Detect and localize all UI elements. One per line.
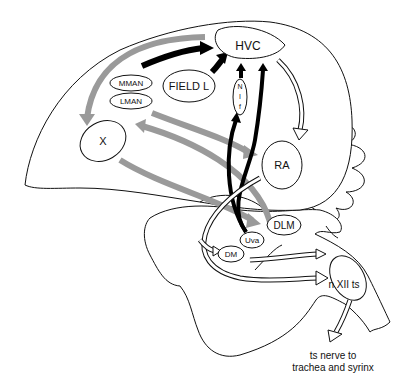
field-l-label: FIELD L [169, 80, 209, 92]
hollow-pathway-ts-nerve [328, 300, 350, 342]
x-label: X [99, 135, 107, 147]
ra-label: RA [274, 159, 290, 171]
hvc-label: HVC [235, 39, 261, 53]
nucleus-lman: LMAN [110, 93, 152, 109]
nif-label-n: N [237, 83, 242, 90]
annotation-trachea-syrinx: trachea and syrinx [292, 362, 374, 373]
nucleus-nif: N I f [233, 79, 247, 115]
lman-label: LMAN [120, 97, 142, 106]
nucleus-mman: MMAN [110, 75, 152, 91]
nif-label-f: f [239, 103, 241, 110]
nif-label-i: I [239, 93, 241, 100]
nxiits-label: n XII ts [328, 279, 359, 290]
mman-label: MMAN [119, 79, 144, 88]
nucleus-field-l: FIELD L [163, 70, 215, 102]
nucleus-ra: RA [262, 141, 302, 189]
nucleus-dm: DM [218, 246, 244, 262]
nucleus-uva: Uva [240, 232, 264, 248]
dlm-label: DLM [273, 220, 294, 231]
dm-label: DM [225, 250, 238, 259]
nucleus-dlm: DLM [267, 215, 301, 235]
annotation-ts-nerve: ts nerve to [310, 350, 357, 361]
song-system-diagram: HVC FIELD L MMAN LMAN N I f X RA DLM Uva… [0, 0, 394, 384]
uva-label: Uva [245, 236, 260, 245]
